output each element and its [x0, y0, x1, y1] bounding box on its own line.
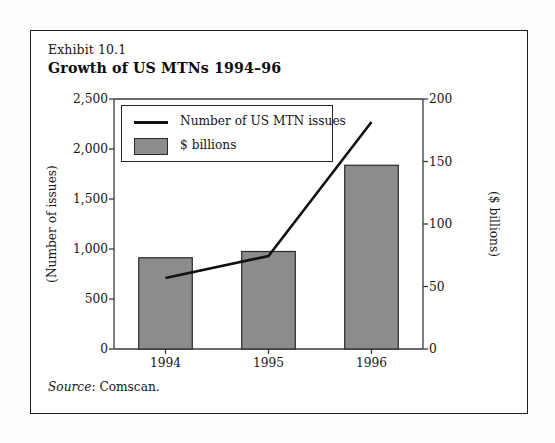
right-tick-label: 100 [429, 218, 452, 230]
legend-item-bar: $ billions [122, 136, 332, 158]
source-value: Comscan. [99, 380, 159, 394]
bar-1996 [345, 165, 399, 349]
right-tick-label: 0 [429, 343, 437, 355]
legend-label: $ billions [180, 138, 236, 152]
chart-legend: Number of US MTN issues $ billions [121, 105, 333, 162]
x-axis-label: 1994 [136, 356, 196, 370]
page-title: Growth of US MTNs 1994–96 [48, 60, 281, 76]
right-tick-label: 200 [429, 93, 452, 105]
right-tick-label: 150 [429, 156, 452, 168]
x-axis-label: 1996 [342, 356, 402, 370]
right-axis-ticks: 050100150200 [429, 99, 469, 349]
right-tick-label: 50 [429, 281, 445, 293]
exhibit-frame: Exhibit 10.1 Growth of US MTNs 1994–96 0… [30, 30, 528, 414]
left-tick-label: 0 [100, 343, 108, 355]
legend-item-line: Number of US MTN issues [122, 112, 332, 134]
left-axis-title: (Number of issues) [45, 159, 59, 289]
line-swatch-icon [134, 121, 168, 124]
source-note: Source: Comscan. [48, 380, 160, 394]
legend-label: Number of US MTN issues [180, 114, 346, 128]
bar-1995 [242, 252, 296, 350]
left-axis-ticks: 05001,0001,5002,0002,500 [64, 99, 108, 349]
left-tick-label: 1,500 [73, 193, 108, 205]
bar-swatch-icon [134, 138, 168, 155]
exhibit-page: Exhibit 10.1 Growth of US MTNs 1994–96 0… [0, 0, 555, 443]
left-tick-label: 1,000 [73, 243, 108, 255]
left-tick-label: 2,000 [73, 143, 108, 155]
x-axis-labels: 199419951996 [114, 356, 423, 376]
right-axis-title: ($ billions) [487, 159, 501, 289]
x-axis-label: 1995 [239, 356, 299, 370]
bar-1994 [139, 258, 193, 349]
left-tick-label: 500 [85, 293, 108, 305]
left-tick-label: 2,500 [73, 93, 108, 105]
source-word: Source [48, 380, 91, 394]
exhibit-label: Exhibit 10.1 [48, 42, 126, 57]
